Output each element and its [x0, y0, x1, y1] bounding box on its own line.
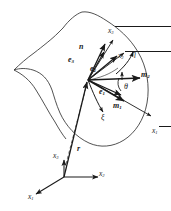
label-x3: x3 — [53, 152, 59, 161]
axis-x1 — [36, 177, 64, 194]
label-e3: e3 — [68, 56, 74, 65]
label-r: r — [77, 145, 80, 153]
label-n: n — [79, 43, 83, 51]
label-eta: η — [132, 50, 136, 58]
label-m1: m1 — [113, 102, 122, 111]
label-x2: x2 — [99, 170, 105, 179]
figure-canvas: n e3 e2 e1 m1 m2 x3 x2 x1 ξ η θ r x3 x2 … — [0, 0, 171, 211]
label-xbar3: x3 — [108, 27, 171, 36]
label-xbar1: x1 — [152, 127, 171, 136]
label-m2: m2 — [141, 71, 150, 80]
label-xi: ξ — [101, 114, 104, 122]
label-e2: e2 — [90, 65, 96, 74]
label-x1: x1 — [28, 193, 34, 202]
label-xbar2: x2 — [118, 52, 171, 61]
label-e1: e1 — [99, 88, 105, 97]
label-theta: θ — [124, 83, 128, 91]
